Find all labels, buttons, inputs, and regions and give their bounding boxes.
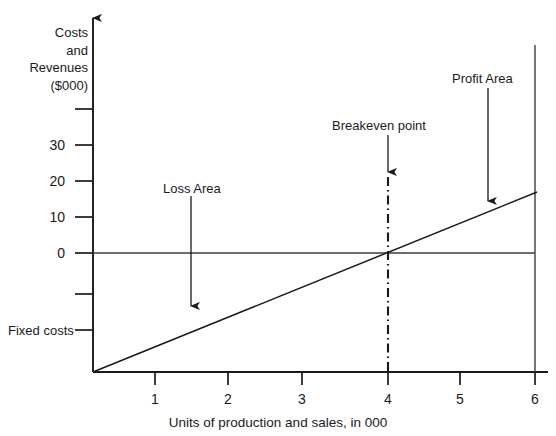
y-axis-title: Costs and Revenues ($000) bbox=[0, 24, 88, 94]
y-axis-title-line-2: and bbox=[0, 42, 88, 60]
y-tick-label-10: 10 bbox=[25, 208, 65, 226]
y-tick-label-0: 0 bbox=[25, 244, 65, 262]
x-axis-title: Units of production and sales, in 000 bbox=[0, 414, 556, 432]
x-tick-label-5: 5 bbox=[448, 390, 472, 408]
breakeven-point-annotation: Breakeven point bbox=[332, 117, 426, 134]
x-tick-label-3: 3 bbox=[290, 390, 314, 408]
x-tick-label-4: 4 bbox=[376, 390, 400, 408]
profit-line bbox=[93, 192, 537, 372]
x-tick-label-2: 2 bbox=[216, 390, 240, 408]
profit-area-annotation: Profit Area bbox=[452, 70, 513, 87]
y-tick-label-20: 20 bbox=[25, 172, 65, 190]
breakeven-chart: Costs and Revenues ($000) 30 20 10 0 Fix… bbox=[0, 0, 556, 436]
loss-area-annotation: Loss Area bbox=[163, 180, 221, 197]
x-tick-label-1: 1 bbox=[143, 390, 167, 408]
fixed-costs-label: Fixed costs bbox=[8, 322, 74, 339]
y-axis-title-line-4: ($000) bbox=[0, 77, 88, 95]
y-tick-label-30: 30 bbox=[25, 136, 65, 154]
x-axis bbox=[93, 372, 548, 385]
x-tick-label-6: 6 bbox=[523, 390, 547, 408]
x-axis-ticks bbox=[155, 372, 535, 385]
y-axis-title-line-3: Revenues bbox=[0, 59, 88, 77]
y-axis-title-line-1: Costs bbox=[0, 24, 88, 42]
y-axis-ticks bbox=[75, 109, 93, 330]
